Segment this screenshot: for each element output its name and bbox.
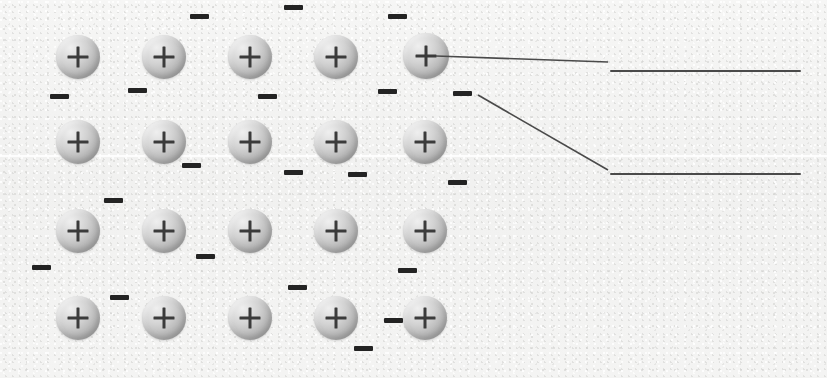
delocalised-electron [110,295,129,300]
delocalised-electron [453,91,472,96]
leader-lines [436,56,608,170]
positive-ion [56,120,100,164]
plus-icon [335,308,338,329]
delocalised-electron [378,89,397,94]
delocalised-electron [448,180,467,185]
plus-icon [249,132,252,153]
plus-icon [163,221,166,242]
positive-ion [403,120,447,164]
positive-ion [314,120,358,164]
positive-ion [314,296,358,340]
delocalised-electron [50,94,69,99]
plus-icon [425,46,428,67]
delocalised-electron [128,88,147,93]
plus-icon [249,308,252,329]
delocalised-electron [182,163,201,168]
delocalised-electron [388,14,407,19]
callout-electron-leader-line [478,95,608,170]
delocalised-electron [288,285,307,290]
plus-icon [163,308,166,329]
plus-icon [163,132,166,153]
delocalised-electron [104,198,123,203]
delocalised-electron [348,172,367,177]
delocalised-electron [196,254,215,259]
positive-ion [228,35,272,79]
callout-ion-leader-line [436,56,608,62]
plus-icon [335,221,338,242]
plus-icon [77,132,80,153]
delocalised-electron [398,268,417,273]
delocalised-electron [384,318,403,323]
plus-icon [335,132,338,153]
delocalised-electron [32,265,51,270]
plus-icon [424,132,427,153]
positive-ion [314,209,358,253]
positive-ion [403,33,449,79]
plus-icon [77,221,80,242]
positive-ion [142,209,186,253]
plus-icon [77,47,80,68]
plus-icon [249,221,252,242]
callout-ion-answer-line[interactable] [610,70,801,72]
positive-ion [228,120,272,164]
positive-ion [142,296,186,340]
positive-ion [56,209,100,253]
positive-ion [314,35,358,79]
plus-icon [249,47,252,68]
delocalised-electron [258,94,277,99]
plus-icon [424,221,427,242]
plus-icon [424,308,427,329]
positive-ion [56,35,100,79]
positive-ion [228,209,272,253]
positive-ion [142,35,186,79]
plus-icon [163,47,166,68]
positive-ion [142,120,186,164]
positive-ion [403,296,447,340]
plus-icon [335,47,338,68]
plus-icon [77,308,80,329]
delocalised-electron [190,14,209,19]
positive-ion [56,296,100,340]
metallic-lattice-diagram [0,0,827,378]
delocalised-electron [284,5,303,10]
callout-electron-answer-line[interactable] [610,173,801,175]
delocalised-electron [284,170,303,175]
positive-ion [403,209,447,253]
delocalised-electron [354,346,373,351]
positive-ion [228,296,272,340]
